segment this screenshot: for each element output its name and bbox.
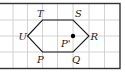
point-p-prime bbox=[71, 34, 75, 38]
label-p: P bbox=[36, 54, 44, 65]
label-p-prime: P' bbox=[60, 38, 70, 49]
figure-canvas: T S U R P Q P' bbox=[0, 0, 125, 72]
hexagon-grid-figure: T S U R P Q P' bbox=[0, 0, 125, 72]
label-q: Q bbox=[72, 54, 80, 65]
label-t: T bbox=[37, 8, 45, 19]
label-s: S bbox=[75, 8, 82, 19]
label-r: R bbox=[90, 31, 99, 42]
label-u: U bbox=[19, 31, 28, 42]
